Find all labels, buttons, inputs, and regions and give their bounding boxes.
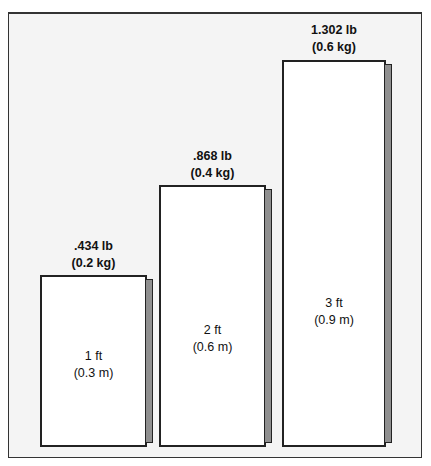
bar-2-length-m: (0.6 m) [159,339,266,356]
bar-2-box [159,185,266,447]
bar-3-length-label: 3 ft (0.9 m) [282,295,386,329]
bar-1-length-m: (0.3 m) [40,365,147,382]
bar-3-box [282,60,386,447]
bar-3-length-m: (0.9 m) [282,312,386,329]
bar-3-side-face [385,64,392,443]
bar-3-weight-kg: (0.6 kg) [282,39,386,56]
bar-2-weight-label: .868 lb (0.4 kg) [159,148,266,182]
bar-2-weight-kg: (0.4 kg) [159,165,266,182]
bar-1-side-face [146,279,153,443]
bar-1-weight-kg: (0.2 kg) [40,255,147,272]
bar-1-length-ft: 1 ft [40,348,147,365]
bar-1-weight-lb: .434 lb [40,238,147,255]
bar-1-weight-label: .434 lb (0.2 kg) [40,238,147,272]
bar-3-weight-label: 1.302 lb (0.6 kg) [282,22,386,56]
bar-2-length-ft: 2 ft [159,322,266,339]
bar-2-weight-lb: .868 lb [159,148,266,165]
bar-2-side-face [265,189,272,443]
bar-1-length-label: 1 ft (0.3 m) [40,348,147,382]
bar-2-length-label: 2 ft (0.6 m) [159,322,266,356]
bar-3-weight-lb: 1.302 lb [282,22,386,39]
bar-3-length-ft: 3 ft [282,295,386,312]
